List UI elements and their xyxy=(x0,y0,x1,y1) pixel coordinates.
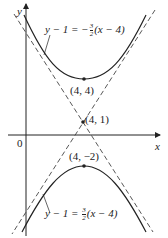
asymptote-label-bottom: y − 1 = 32(x − 4) xyxy=(45,207,117,222)
origin-label: 0 xyxy=(17,138,23,149)
vertex-lower-point xyxy=(82,164,86,168)
vertex-lower-label: (4, −2) xyxy=(69,151,99,162)
y-axis-label: y xyxy=(17,6,22,17)
vertex-upper-label: (4, 4) xyxy=(70,85,94,96)
x-axis-label: x xyxy=(155,141,160,152)
lower-branch xyxy=(22,166,146,232)
center-label: (4, 1) xyxy=(85,114,109,125)
vertex-upper-point xyxy=(82,77,86,81)
fraction: 32 xyxy=(82,207,86,222)
leader-top xyxy=(44,35,50,55)
fraction: 32 xyxy=(90,23,94,38)
asymptote-label-top: y − 1 = −32(x − 4) xyxy=(45,23,125,38)
